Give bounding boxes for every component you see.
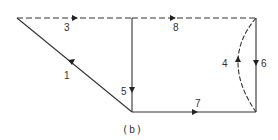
edge-3-arrow bbox=[72, 15, 78, 21]
edge-7-label: 7 bbox=[195, 98, 201, 109]
edge-5-label: 5 bbox=[121, 86, 127, 97]
graph-diagram: 3 8 1 5 6 4 7 (b) bbox=[0, 0, 278, 140]
edge-7-arrow bbox=[192, 109, 198, 115]
figure-caption: (b) bbox=[122, 124, 143, 135]
edge-3-label: 3 bbox=[64, 22, 70, 33]
edge-6-label: 6 bbox=[261, 58, 267, 69]
edge-8-arrow bbox=[170, 15, 176, 21]
edge-4-label: 4 bbox=[222, 58, 228, 69]
edge-4 bbox=[238, 18, 256, 112]
edge-8-label: 8 bbox=[173, 22, 179, 33]
edge-5-arrow bbox=[129, 87, 135, 93]
edge-1 bbox=[17, 18, 132, 112]
edge-6-arrow bbox=[253, 60, 259, 66]
edge-1-label: 1 bbox=[64, 70, 70, 81]
edge-4-arrow bbox=[235, 56, 241, 62]
